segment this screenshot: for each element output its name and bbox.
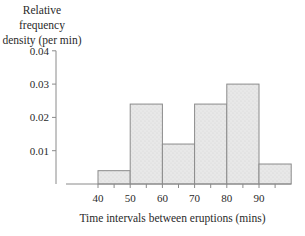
histogram-bars [98, 84, 291, 184]
x-axis: 405060708090 [66, 184, 291, 204]
y-axis: 0.010.020.030.04 [30, 45, 56, 184]
x-tick-label: 60 [157, 192, 169, 204]
histogram-bar [130, 104, 162, 184]
y-tick-label: 0.03 [30, 78, 50, 90]
x-tick-label: 90 [254, 192, 266, 204]
x-tick-label: 80 [221, 192, 233, 204]
y-tick-label: 0.04 [30, 45, 50, 57]
x-tick-label: 70 [189, 192, 201, 204]
histogram-bar [195, 104, 227, 184]
y-tick-label: 0.01 [30, 145, 49, 157]
y-tick-label: 0.02 [30, 111, 49, 123]
x-tick-label: 40 [93, 192, 105, 204]
histogram-bar [227, 84, 259, 184]
histogram-bar [259, 164, 291, 184]
histogram-bar [162, 144, 194, 184]
x-tick-label: 50 [125, 192, 137, 204]
histogram-plot: 0.010.020.030.04 405060708090 [0, 0, 305, 236]
histogram-bar [98, 171, 130, 184]
x-axis-label: Time intervals between eruptions (mins) [40, 212, 305, 224]
